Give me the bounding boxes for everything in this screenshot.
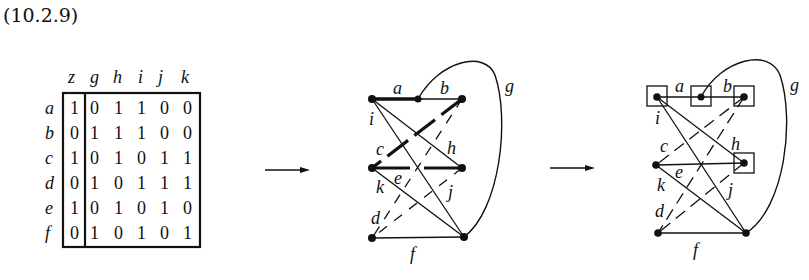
edge-label-h: h bbox=[447, 138, 456, 158]
graph-right-labels: a b g i h c e k j d f bbox=[655, 75, 799, 260]
cell: 1 bbox=[183, 223, 192, 243]
row-label-a: a bbox=[45, 98, 54, 118]
cell: 1 bbox=[137, 173, 146, 193]
cell: 0 bbox=[90, 98, 99, 118]
edge-label-a: a bbox=[675, 76, 684, 96]
edge-label-j: j bbox=[726, 180, 733, 200]
vertex bbox=[415, 96, 422, 103]
cell: 0 bbox=[90, 148, 99, 168]
edge-label-k: k bbox=[657, 175, 666, 195]
figure-canvas: z g h i j k a b c d e f 1 0 1 1 0 0 0 1 … bbox=[0, 0, 809, 280]
edge-g bbox=[418, 61, 502, 237]
row-label-f: f bbox=[45, 223, 53, 243]
edge-label-d: d bbox=[655, 201, 665, 221]
edge-label-e: e bbox=[675, 162, 683, 182]
edge-label-i: i bbox=[369, 109, 374, 129]
vertex bbox=[458, 164, 466, 172]
edge-label-g: g bbox=[790, 75, 799, 95]
cell: 1 bbox=[137, 223, 146, 243]
matrix-row-d: 0 1 0 1 1 1 bbox=[70, 173, 192, 193]
row-label-e: e bbox=[45, 198, 53, 218]
incidence-matrix: z g h i j k a b c d e f 1 0 1 1 0 0 0 1 … bbox=[45, 67, 200, 247]
vertex bbox=[740, 93, 748, 101]
cell: 0 bbox=[90, 198, 99, 218]
matrix-row-a: 1 0 1 1 0 0 bbox=[70, 98, 192, 118]
cell: 1 bbox=[114, 198, 123, 218]
graph-middle-labels: a b g i h c e k j d f bbox=[369, 76, 514, 264]
edge-label-f: f bbox=[693, 240, 701, 260]
cell: 1 bbox=[90, 123, 99, 143]
cell: 1 bbox=[160, 198, 169, 218]
edge-label-b: b bbox=[440, 78, 449, 98]
vertex bbox=[460, 233, 468, 241]
cell: 0 bbox=[137, 148, 146, 168]
row-label-b: b bbox=[45, 123, 54, 143]
matrix-row-f: 0 1 0 1 0 1 bbox=[70, 223, 192, 243]
vertex bbox=[653, 93, 661, 101]
edge-label-h: h bbox=[731, 134, 740, 154]
col-header-g: g bbox=[90, 67, 99, 87]
cell: 1 bbox=[114, 148, 123, 168]
vertex bbox=[368, 164, 376, 172]
cell: 1 bbox=[160, 173, 169, 193]
cell: 1 bbox=[183, 148, 192, 168]
cell: 1 bbox=[137, 123, 146, 143]
edge-label-k: k bbox=[376, 177, 385, 197]
vertex bbox=[458, 95, 466, 103]
cell: 1 bbox=[70, 148, 79, 168]
edge-label-f: f bbox=[410, 244, 418, 264]
cell: 0 bbox=[114, 223, 123, 243]
cell: 1 bbox=[160, 148, 169, 168]
matrix-outer-box bbox=[63, 93, 200, 247]
col-header-h: h bbox=[113, 67, 122, 87]
vertex bbox=[368, 95, 376, 103]
cell: 0 bbox=[183, 98, 192, 118]
graph-middle bbox=[368, 61, 502, 242]
cell: 1 bbox=[70, 198, 79, 218]
edge-c bbox=[656, 97, 744, 165]
cell: 0 bbox=[137, 198, 146, 218]
cell: 1 bbox=[70, 98, 79, 118]
cell: 0 bbox=[70, 123, 79, 143]
cell: 0 bbox=[160, 98, 169, 118]
col-header-z: z bbox=[67, 67, 75, 87]
vertex bbox=[368, 234, 376, 242]
cell: 1 bbox=[114, 123, 123, 143]
edge-label-i: i bbox=[655, 108, 660, 128]
row-label-d: d bbox=[45, 173, 55, 193]
matrix-row-c: 1 0 1 0 1 1 bbox=[70, 148, 192, 168]
edge-label-g: g bbox=[505, 76, 514, 96]
cell: 0 bbox=[160, 223, 169, 243]
vertex bbox=[698, 94, 705, 101]
cell: 1 bbox=[90, 173, 99, 193]
edge-label-j: j bbox=[446, 182, 453, 202]
cell: 0 bbox=[114, 173, 123, 193]
col-header-j: j bbox=[156, 67, 163, 87]
cell: 0 bbox=[70, 173, 79, 193]
cell: 1 bbox=[137, 98, 146, 118]
cell: 0 bbox=[183, 198, 192, 218]
col-header-k: k bbox=[181, 67, 190, 87]
matrix-row-e: 1 0 1 0 1 0 bbox=[70, 198, 192, 218]
edge-label-c: c bbox=[376, 139, 384, 159]
cell: 0 bbox=[183, 123, 192, 143]
row-label-c: c bbox=[45, 148, 53, 168]
edge-label-b: b bbox=[723, 76, 732, 96]
cell: 1 bbox=[90, 223, 99, 243]
edge-label-c: c bbox=[660, 136, 668, 156]
cell: 1 bbox=[114, 98, 123, 118]
vertex bbox=[740, 159, 748, 167]
matrix-row-b: 0 1 1 1 0 0 bbox=[70, 123, 192, 143]
arrow-right-icon bbox=[265, 167, 310, 173]
cell: 1 bbox=[183, 173, 192, 193]
edge-label-a: a bbox=[393, 78, 402, 98]
col-header-i: i bbox=[138, 67, 143, 87]
vertex bbox=[654, 229, 662, 237]
arrow-right-icon bbox=[550, 165, 595, 171]
edge-label-d: d bbox=[371, 208, 381, 228]
vertex bbox=[742, 229, 750, 237]
cell: 0 bbox=[70, 223, 79, 243]
cell: 0 bbox=[160, 123, 169, 143]
edge-f bbox=[372, 237, 464, 238]
vertex bbox=[652, 161, 660, 169]
